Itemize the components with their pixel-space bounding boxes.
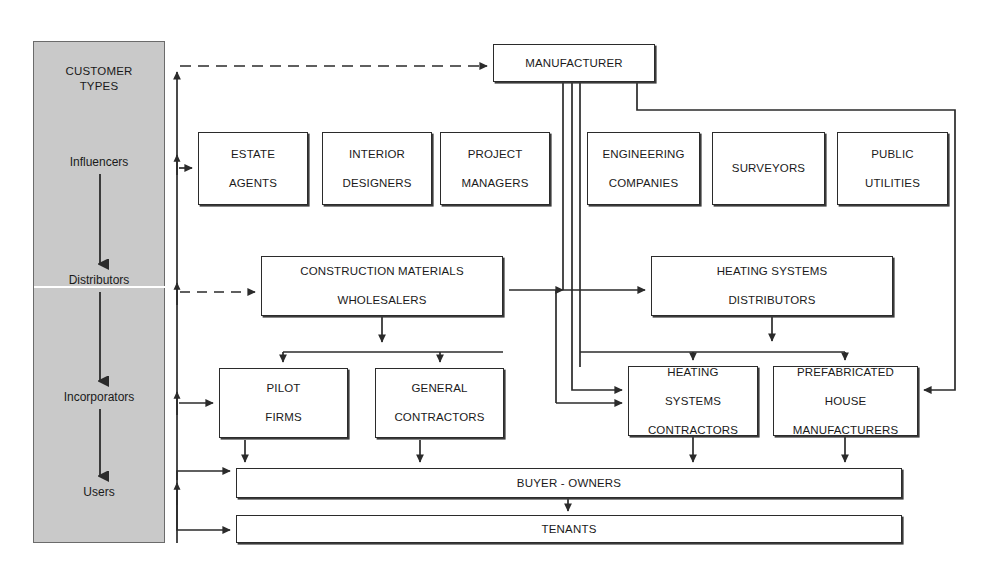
line2: DESIGNERS: [339, 176, 414, 191]
line1: PILOT: [262, 381, 305, 396]
line1: INTERIOR: [339, 147, 414, 162]
node-general-contractors[interactable]: GENERAL CONTRACTORS: [375, 368, 504, 438]
line1: ENGINEERING: [599, 147, 687, 162]
node-prefabricated-house-manufacturers[interactable]: PREFABRICATED HOUSE MANUFACTURERS: [773, 366, 918, 436]
node-interior-designers[interactable]: INTERIOR DESIGNERS: [322, 132, 432, 205]
node-estate-agents-label: ESTATE AGENTS: [223, 147, 283, 191]
wire-spine-to-tenants: [177, 500, 230, 530]
node-engineering-companies-label: ENGINEERING COMPANIES: [596, 147, 690, 191]
node-heating-systems-contractors[interactable]: HEATING SYSTEMS CONTRACTORS: [628, 366, 758, 436]
node-general-contractors-label: GENERAL CONTRACTORS: [388, 381, 490, 425]
node-surveyors[interactable]: SURVEYORS: [712, 132, 825, 205]
line2: DISTRIBUTORS: [714, 293, 831, 308]
line2: MANAGERS: [458, 176, 531, 191]
node-estate-agents[interactable]: ESTATE AGENTS: [198, 132, 308, 205]
node-project-managers[interactable]: PROJECT MANAGERS: [440, 132, 550, 205]
line1: HEATING: [645, 365, 741, 380]
node-surveyors-label: SURVEYORS: [726, 161, 811, 176]
line2: COMPANIES: [599, 176, 687, 191]
line2: AGENTS: [226, 176, 280, 191]
line2: FIRMS: [262, 410, 305, 425]
wire-manufacturer-to-prefab: [637, 82, 955, 390]
line1: SURVEYORS: [729, 161, 808, 176]
line3: MANUFACTURERS: [790, 423, 901, 438]
diagram-canvas: CUSTOMER TYPES Influencers Distributors …: [0, 0, 988, 565]
line2: WHOLESALERS: [297, 293, 466, 308]
node-prefabricated-house-manufacturers-label: PREFABRICATED HOUSE MANUFACTURERS: [787, 365, 904, 438]
line3: CONTRACTORS: [645, 423, 741, 438]
node-buyer-owners[interactable]: BUYER - OWNERS: [236, 468, 902, 498]
line1: GENERAL: [391, 381, 487, 396]
line2: SYSTEMS: [645, 394, 741, 409]
line1: PUBLIC: [862, 147, 923, 162]
node-manufacturer-label: MANUFACTURER: [522, 56, 626, 71]
sidebar-flow-arrows: [34, 42, 166, 544]
node-engineering-companies[interactable]: ENGINEERING COMPANIES: [587, 132, 700, 205]
line2: UTILITIES: [862, 176, 923, 191]
wire-spine-to-buyer-owners: [177, 471, 230, 480]
node-manufacturer[interactable]: MANUFACTURER: [493, 44, 655, 82]
node-construction-materials-wholesalers-label: CONSTRUCTION MATERIALS WHOLESALERS: [294, 264, 469, 308]
line1: PREFABRICATED: [790, 365, 901, 380]
node-buyer-owners-label: BUYER - OWNERS: [517, 477, 621, 489]
node-public-utilities[interactable]: PUBLIC UTILITIES: [837, 132, 948, 205]
line1: ESTATE: [226, 147, 280, 162]
node-pilot-firms-label: PILOT FIRMS: [259, 381, 308, 425]
node-heating-systems-distributors[interactable]: HEATING SYSTEMS DISTRIBUTORS: [651, 256, 893, 316]
line1: PROJECT: [458, 147, 531, 162]
node-public-utilities-label: PUBLIC UTILITIES: [859, 147, 926, 191]
node-interior-designers-label: INTERIOR DESIGNERS: [336, 147, 417, 191]
line2: HOUSE: [790, 394, 901, 409]
node-heating-systems-contractors-label: HEATING SYSTEMS CONTRACTORS: [642, 365, 744, 438]
customer-types-sidebar: CUSTOMER TYPES Influencers Distributors …: [33, 41, 165, 543]
node-tenants[interactable]: TENANTS: [236, 515, 902, 543]
node-pilot-firms[interactable]: PILOT FIRMS: [219, 368, 348, 438]
line1: HEATING SYSTEMS: [714, 264, 831, 279]
node-project-managers-label: PROJECT MANAGERS: [455, 147, 534, 191]
node-construction-materials-wholesalers[interactable]: CONSTRUCTION MATERIALS WHOLESALERS: [261, 256, 503, 316]
line2: CONTRACTORS: [391, 410, 487, 425]
node-tenants-label: TENANTS: [541, 523, 596, 535]
node-heating-systems-distributors-label: HEATING SYSTEMS DISTRIBUTORS: [711, 264, 834, 308]
line1: CONSTRUCTION MATERIALS: [297, 264, 466, 279]
